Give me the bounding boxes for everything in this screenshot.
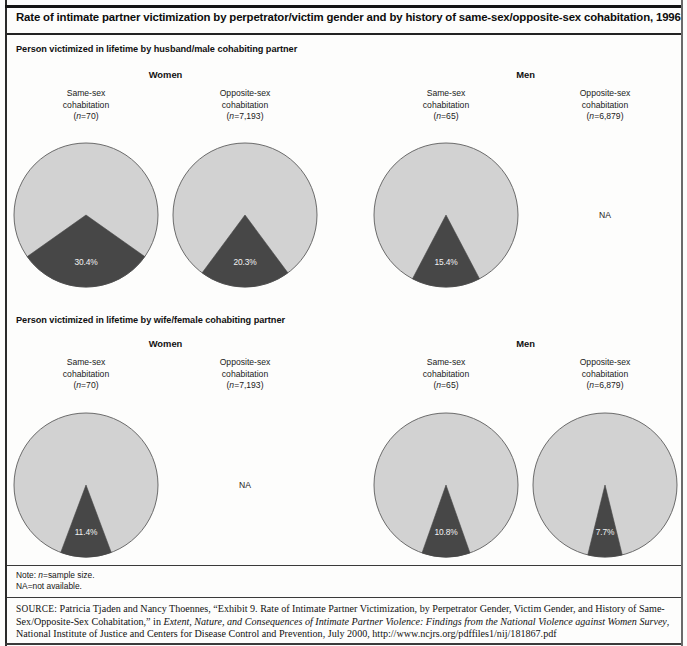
caption-line-2: cohabitation (11, 100, 161, 112)
caption-line-2: cohabitation (371, 100, 521, 112)
frame-right-rule (681, 0, 683, 646)
caption-line-2: cohabitation (170, 100, 320, 112)
n-value: =70) (81, 111, 98, 121)
pie-value-label: 15.4% (434, 257, 457, 267)
caption-sample-size: (n=65) (371, 111, 521, 123)
caption-line-2: cohabitation (371, 369, 521, 381)
caption-sample-size: (n=70) (11, 111, 161, 123)
page-title: Rate of intimate partner victimization b… (16, 11, 676, 23)
caption-sample-size: (n=7,193) (170, 111, 320, 123)
caption-line-1: Same-sex (11, 88, 161, 100)
section-header-husband-male: Person victimized in lifetime by husband… (16, 44, 297, 54)
bottom-rule (5, 643, 681, 645)
gender-group-label-men: Men (516, 69, 535, 80)
pie-value-label: 20.3% (233, 257, 256, 267)
pie-value-label: 11.4% (75, 527, 98, 537)
gender-group-label-men: Men (516, 338, 535, 349)
n-value: =70) (81, 380, 98, 390)
column-caption-same-sex: Same-sexcohabitation(n=70) (11, 357, 161, 392)
column-caption-opposite-sex: Opposite-sexcohabitation(n=7,193) (170, 88, 320, 123)
column-caption-same-sex: Same-sexcohabitation(n=70) (11, 88, 161, 123)
n-value: =6,879) (594, 111, 623, 121)
na-label: NA (239, 480, 251, 490)
note-prefix: Note: (16, 570, 38, 580)
note-suffix: =sample size. (43, 570, 94, 580)
top-rule (5, 5, 681, 8)
caption-sample-size: (n=6,879) (530, 111, 680, 123)
n-value: =6,879) (594, 380, 623, 390)
pie-value-label: 7.7% (596, 527, 615, 537)
caption-line-2: cohabitation (530, 369, 680, 381)
note-na: NA=not available. (16, 581, 94, 592)
caption-sample-size: (n=6,879) (530, 380, 680, 392)
source-label: SOURCE: (16, 604, 57, 614)
caption-line-1: Opposite-sex (170, 88, 320, 100)
caption-line-2: cohabitation (11, 369, 161, 381)
caption-line-1: Same-sex (371, 88, 521, 100)
column-caption-opposite-sex: Opposite-sexcohabitation(n=7,193) (170, 357, 320, 392)
column-caption-opposite-sex: Opposite-sexcohabitation(n=6,879) (530, 357, 680, 392)
caption-sample-size: (n=65) (371, 380, 521, 392)
caption-line-1: Same-sex (371, 357, 521, 369)
column-caption-same-sex: Same-sexcohabitation(n=65) (371, 88, 521, 123)
note-sample-size: Note: n=sample size. (16, 570, 94, 581)
pie-value-label: 10.8% (434, 527, 457, 537)
section-header-wife-female: Person victimized in lifetime by wife/fe… (16, 315, 285, 325)
notes-rule (7, 565, 681, 566)
n-value: =7,193) (234, 380, 263, 390)
na-label: NA (599, 210, 611, 220)
pie-value-label: 30.4% (74, 257, 97, 267)
caption-line-2: cohabitation (530, 100, 680, 112)
caption-line-1: Opposite-sex (170, 357, 320, 369)
source-citation: SOURCE: Patricia Tjaden and Nancy Thoenn… (16, 603, 674, 641)
caption-line-2: cohabitation (170, 369, 320, 381)
caption-line-1: Opposite-sex (530, 357, 680, 369)
title-underrule (7, 33, 681, 35)
column-caption-same-sex: Same-sexcohabitation(n=65) (371, 357, 521, 392)
frame-left-rule (5, 0, 7, 646)
n-value: =7,193) (234, 111, 263, 121)
caption-sample-size: (n=7,193) (170, 380, 320, 392)
source-rule (7, 597, 681, 598)
caption-line-1: Opposite-sex (530, 88, 680, 100)
n-value: =65) (441, 111, 458, 121)
caption-sample-size: (n=70) (11, 380, 161, 392)
caption-line-1: Same-sex (11, 357, 161, 369)
n-value: =65) (441, 380, 458, 390)
figure-notes: Note: n=sample size. NA=not available. (16, 570, 94, 593)
source-title-italic: Extent, Nature, and Consequences of Inti… (163, 616, 666, 627)
column-caption-opposite-sex: Opposite-sexcohabitation(n=6,879) (530, 88, 680, 123)
gender-group-label-women: Women (149, 69, 183, 80)
gender-group-label-women: Women (149, 338, 183, 349)
exhibit-figure: Rate of intimate partner victimization b… (0, 0, 687, 646)
